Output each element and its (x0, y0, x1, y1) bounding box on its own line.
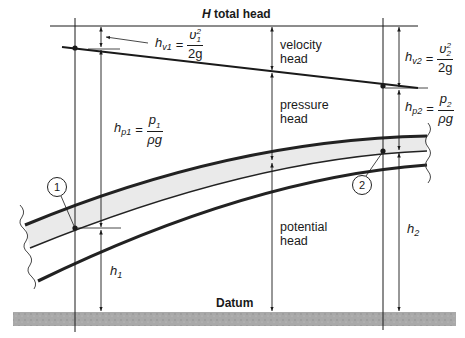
bernoulli-head-diagram (0, 0, 465, 338)
pipe-point-2 (380, 148, 385, 153)
pipe-break-right (426, 123, 431, 183)
potential-head-line2: head (280, 234, 327, 248)
hv1-leader (106, 37, 148, 43)
hp2-equation: hp2 = p2 ρg (405, 92, 454, 125)
hv2-equation: hv2 = υ22 2g (405, 42, 453, 74)
total-head-symbol: H (202, 7, 211, 21)
pressure-head-line2: head (280, 112, 329, 126)
hp1-symbol: hp1 (114, 121, 131, 137)
equals-sign: = (176, 38, 184, 51)
pressure-head-line1: pressure (280, 98, 329, 112)
hv1-symbol: hv1 (155, 36, 172, 52)
hv1-equation: hv1 = υ21 2g (155, 28, 203, 60)
total-head-title: H total head (202, 8, 271, 20)
hp2-fraction: p2 ρg (438, 92, 454, 125)
potential-head-label: potential head (280, 220, 327, 248)
total-head-text: total head (211, 7, 271, 21)
egl-point-2 (380, 83, 385, 88)
velocity-head-line1: velocity (280, 38, 322, 52)
datum-band (13, 312, 456, 326)
hp2-symbol: hp2 (405, 100, 422, 116)
pressure-head-label: pressure head (280, 98, 329, 126)
h2-label: h2 (407, 222, 419, 238)
pipe-point-1 (72, 225, 77, 230)
h1-label: h1 (110, 264, 122, 280)
point-2-callout: 2 (352, 175, 372, 195)
potential-head-line1: potential (280, 220, 327, 234)
equals-sign: = (426, 52, 434, 65)
callout-2-leader (366, 153, 382, 176)
point-1-callout: 1 (47, 177, 67, 197)
hp1-equation: hp1 = p1 ρg (114, 113, 163, 146)
datum-label: Datum (216, 297, 253, 309)
hv1-fraction: υ21 2g (187, 28, 203, 60)
hv2-symbol: hv2 (405, 50, 422, 66)
hydraulic-grade-line (62, 47, 418, 88)
hv2-fraction: υ22 2g (437, 42, 453, 74)
velocity-head-label: velocity head (280, 38, 322, 66)
equals-sign: = (426, 102, 434, 115)
egl-point-1 (72, 45, 77, 50)
hp1-fraction: p1 ρg (147, 113, 163, 146)
equals-sign: = (135, 123, 143, 136)
velocity-head-line2: head (280, 52, 322, 66)
